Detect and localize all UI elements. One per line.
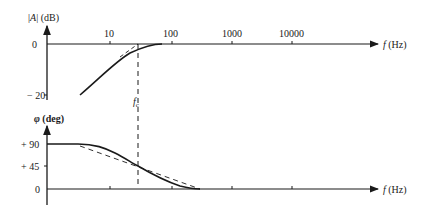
- phase-plot: φ (deg) + 90 + 45 0 f (Hz): [21, 113, 407, 205]
- magnitude-curve: [80, 44, 162, 95]
- phase-y-label: φ (deg): [34, 113, 64, 125]
- phase-curve: [47, 144, 200, 189]
- phase-x-label: f (Hz): [383, 184, 407, 196]
- fc-label: fc: [133, 96, 139, 109]
- tick-label-minus20db: − 20: [27, 90, 45, 101]
- tick-label-45: + 45: [21, 161, 39, 172]
- x-tick-label-10: 10: [104, 28, 114, 39]
- magnitude-plot: |A| (dB) 0 − 20 10 100 1000 10000 f (Hz)…: [27, 12, 407, 186]
- tick-label-0deg: 0: [35, 184, 40, 195]
- phase-asymptote: [80, 146, 200, 189]
- x-tick-label-10000: 10000: [279, 28, 304, 39]
- bode-plot: |A| (dB) 0 − 20 10 100 1000 10000 f (Hz)…: [0, 0, 429, 222]
- tick-label-90: + 90: [21, 139, 39, 150]
- magnitude-x-label: f (Hz): [383, 39, 407, 51]
- x-tick-label-1000: 1000: [222, 28, 242, 39]
- x-tick-label-100: 100: [163, 28, 178, 39]
- magnitude-y-label: |A| (dB): [28, 12, 59, 24]
- tick-label-0db: 0: [32, 39, 37, 50]
